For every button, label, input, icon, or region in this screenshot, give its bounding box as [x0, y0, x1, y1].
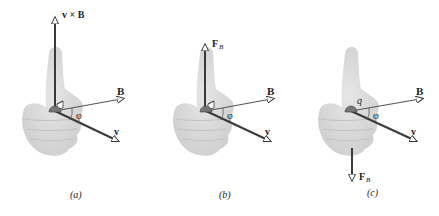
v-label: v: [114, 126, 119, 137]
caption-a: (a): [70, 189, 82, 201]
b-label: B: [416, 85, 424, 97]
fb-subscript: B: [366, 176, 371, 184]
vxb-label: v × B: [62, 9, 85, 20]
hand-icon: [173, 47, 234, 156]
b-label: B: [117, 85, 125, 97]
caption-b: (b): [219, 189, 231, 201]
fb-subscript: B: [219, 43, 224, 51]
panel-a: φ v × B B v (a): [22, 9, 125, 201]
hand-icon: [22, 47, 83, 156]
fb-label: F: [359, 171, 365, 182]
panel-b: φ F B B v (b): [173, 38, 275, 201]
angle-label: φ: [76, 110, 82, 121]
angle-label: φ: [227, 110, 233, 121]
right-hand-rule-figure: φ v × B B v (a) φ F B B v (b) q: [0, 0, 439, 216]
v-label: v: [265, 126, 270, 137]
b-label: B: [267, 85, 275, 97]
hand-icon: [318, 47, 379, 156]
caption-c: (c): [367, 187, 379, 199]
v-label: v: [411, 126, 416, 137]
fb-label: F: [212, 38, 218, 49]
angle-label: φ: [373, 110, 379, 121]
panel-c: q φ F B B v (c): [318, 47, 424, 199]
charge-label: q: [357, 95, 362, 106]
